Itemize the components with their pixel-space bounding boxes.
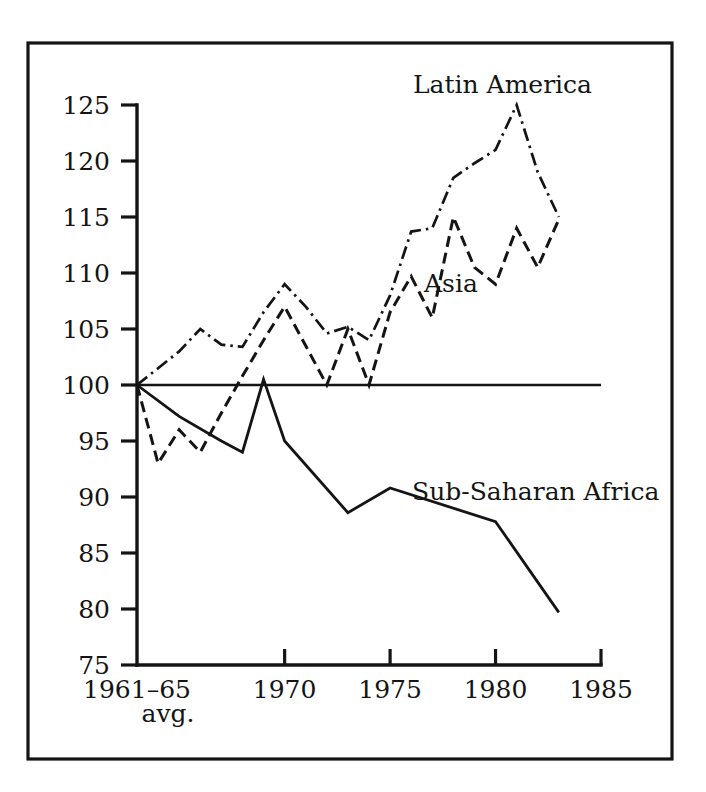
- series-line-latin-america: [137, 105, 559, 385]
- series-lines: [137, 105, 559, 612]
- series-label-latin-america: Latin America: [413, 70, 592, 99]
- y-axis: 7580859095100105110115120125: [62, 91, 137, 680]
- line-chart: 7580859095100105110115120125 1961–651970…: [0, 0, 706, 792]
- y-tick-label: 95: [78, 427, 110, 456]
- y-tick-label: 110: [62, 259, 110, 288]
- x-tick-label: 1980: [464, 675, 528, 704]
- series-label-africa: Sub-Saharan Africa: [412, 477, 659, 506]
- y-tick-label: 90: [78, 483, 110, 512]
- x-tick-label: 1975: [358, 675, 422, 704]
- x-axis-sublabel: avg.: [142, 699, 195, 728]
- x-tick-label: 1985: [569, 675, 633, 704]
- y-tick-label: 105: [62, 315, 110, 344]
- series-label-asia: Asia: [423, 269, 478, 298]
- y-tick-label: 125: [62, 91, 110, 120]
- y-tick-label: 80: [78, 595, 110, 624]
- y-tick-label: 120: [62, 147, 110, 176]
- x-axis: 1961–651970197519801985: [83, 649, 633, 704]
- x-tick-label: 1970: [253, 675, 317, 704]
- y-tick-label: 100: [62, 371, 110, 400]
- figure-frame: [28, 43, 672, 759]
- y-tick-label: 85: [78, 539, 110, 568]
- y-tick-label: 115: [62, 203, 110, 232]
- figure-root: 7580859095100105110115120125 1961–651970…: [0, 0, 706, 792]
- series-line-asia: [137, 217, 559, 463]
